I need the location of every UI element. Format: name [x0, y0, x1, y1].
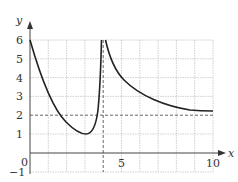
y-tick-2: 2	[16, 109, 23, 122]
grid	[30, 40, 213, 172]
chart-svg: y x 6 5 4 3 2 1 −1 0 5 10	[0, 0, 238, 182]
y-tick-1: 1	[16, 128, 23, 141]
y-tick-5: 5	[16, 53, 23, 66]
y-axis-arrow-icon	[27, 21, 33, 29]
y-tick-6: 6	[16, 34, 23, 47]
x-axis-label: x	[228, 147, 235, 160]
x-tick-10: 10	[206, 157, 220, 170]
y-axis-label: y	[15, 14, 23, 27]
y-tick-4: 4	[16, 72, 23, 85]
axes	[30, 26, 222, 174]
x-tick-5: 5	[118, 157, 125, 170]
left-branch	[30, 40, 102, 134]
origin-label: 0	[21, 156, 28, 169]
curve	[30, 40, 213, 134]
y-tick-3: 3	[16, 90, 23, 103]
x-axis-arrow-icon	[218, 150, 226, 156]
